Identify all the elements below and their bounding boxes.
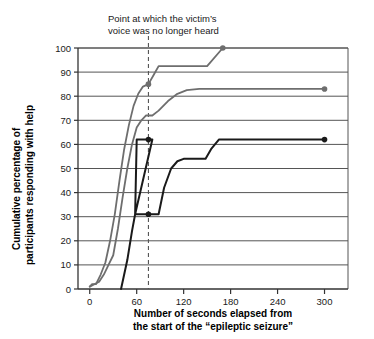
chart-figure: Point at which the victim’s voice was no… xyxy=(0,0,374,339)
annotation-line1: Point at which the victim’s xyxy=(108,13,217,24)
marker-endpoint-group-3-slowest xyxy=(322,137,328,143)
y-axis-ticks: 0102030405060708090100 xyxy=(55,43,78,295)
x-tick-label-240: 240 xyxy=(270,296,286,307)
marker-endpoint-group-1-fastest xyxy=(220,45,226,51)
y-axis-title-line2: participants responding with help xyxy=(24,105,35,265)
y-tick-label-10: 10 xyxy=(60,259,71,270)
series-line-group-2-middle xyxy=(90,89,325,287)
x-tick-label-60: 60 xyxy=(131,296,142,307)
y-tick-label-80: 80 xyxy=(60,91,71,102)
cumulative-response-line-chart: Point at which the victim’s voice was no… xyxy=(0,0,374,339)
series-line-group-3-slowest xyxy=(121,140,324,289)
x-tick-label-120: 120 xyxy=(176,296,192,307)
y-tick-label-90: 90 xyxy=(60,67,71,78)
x-axis-title-line2: the start of the “epileptic seizure” xyxy=(133,321,293,332)
y-tick-label-20: 20 xyxy=(60,235,71,246)
x-axis-title-line1: Number of seconds elapsed from xyxy=(134,308,292,319)
annotation-line2: voice was no longer heard xyxy=(108,25,219,36)
data-point-markers xyxy=(146,45,328,217)
gridlines xyxy=(78,48,348,265)
marker-endpoint-group-2-middle xyxy=(322,86,328,92)
y-axis-title-line1: Cumulative percentage of xyxy=(11,127,22,250)
x-tick-label-0: 0 xyxy=(87,296,92,307)
y-tick-label-40: 40 xyxy=(60,187,71,198)
marker-dashed-group-3-slowest-1 xyxy=(146,211,152,217)
y-tick-label-100: 100 xyxy=(55,43,71,54)
y-tick-label-30: 30 xyxy=(60,211,71,222)
marker-dashed-group-1-fastest xyxy=(146,81,152,87)
x-tick-label-180: 180 xyxy=(223,296,239,307)
marker-dashed-group-3-slowest-0 xyxy=(146,137,152,143)
y-tick-label-50: 50 xyxy=(60,163,71,174)
x-tick-label-300: 300 xyxy=(317,296,333,307)
x-axis-ticks: 060120180240300 xyxy=(87,289,332,307)
series-line-group-1-fastest xyxy=(90,48,223,287)
y-tick-label-60: 60 xyxy=(60,139,71,150)
y-tick-label-0: 0 xyxy=(66,284,71,295)
y-tick-label-70: 70 xyxy=(60,115,71,126)
